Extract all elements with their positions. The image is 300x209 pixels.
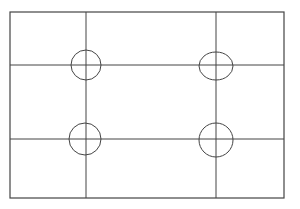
grid-diagram (0, 0, 300, 209)
intersection-markers (69, 50, 233, 157)
diagram-canvas (0, 0, 300, 209)
vertical-grid-lines (86, 12, 216, 198)
horizontal-grid-lines (10, 65, 284, 139)
outer-frame (10, 12, 284, 198)
